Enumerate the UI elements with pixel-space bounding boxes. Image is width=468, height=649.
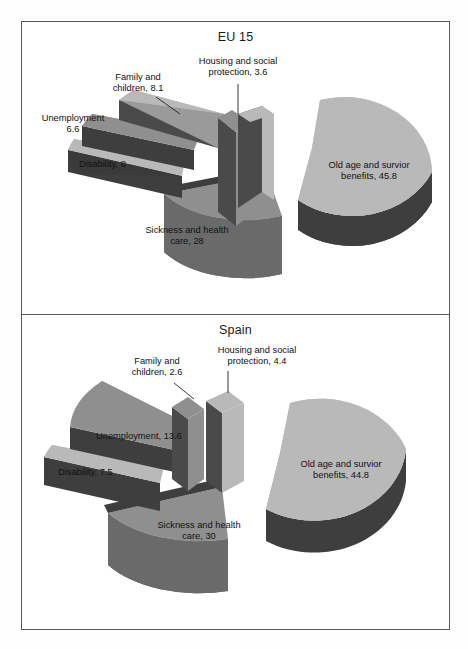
label-unemployment-spain: Unemployment, 13.6 — [96, 431, 226, 442]
label-sickness-spain: Sickness and health care, 30 — [138, 520, 260, 543]
label-housing-spain: Housing and social protection, 4.4 — [196, 345, 318, 368]
label-disability-eu15: Disability, 8 — [79, 159, 171, 170]
label-family-eu15: Family and children, 8.1 — [90, 72, 186, 95]
label-oldage-spain: Old age and survior benefits, 44.8 — [280, 459, 402, 482]
figure-frame: EU 15 — [21, 21, 450, 630]
chart-panel-spain: Spain — [22, 315, 449, 629]
chart-panel-eu15: EU 15 — [22, 22, 449, 315]
label-unemployment-eu15: Unemployment 6.6 — [17, 113, 129, 136]
slice-family-spain — [172, 397, 204, 491]
label-oldage-eu15: Old age and survior benefits, 45.8 — [309, 160, 429, 183]
label-housing-eu15: Housing and social protection, 3.6 — [178, 56, 298, 79]
label-disability-spain: Disability, 7.5 — [58, 467, 168, 478]
label-sickness-eu15: Sickness and health care, 28 — [128, 225, 246, 248]
label-family-spain: Family and children, 2.6 — [108, 356, 206, 379]
